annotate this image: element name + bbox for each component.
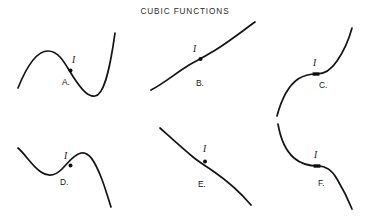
inflection-dot-d [69, 164, 73, 168]
figure-background [0, 0, 371, 216]
cubic-functions-figure: CUBIC FUNCTIONS I A. I B. I C. I D. I E. [0, 0, 371, 216]
inflection-dot-e [203, 160, 207, 164]
panel-label-d: D. [60, 177, 68, 187]
panel-label-a: A. [62, 77, 70, 87]
inflection-dot-b [199, 57, 203, 61]
panel-label-f: F. [318, 178, 325, 188]
figure-title: CUBIC FUNCTIONS [140, 7, 229, 16]
panel-label-c: C. [319, 80, 327, 90]
panel-label-e: E. [198, 179, 206, 189]
panel-label-b: B. [196, 78, 204, 88]
inflection-dot-a [69, 69, 73, 73]
